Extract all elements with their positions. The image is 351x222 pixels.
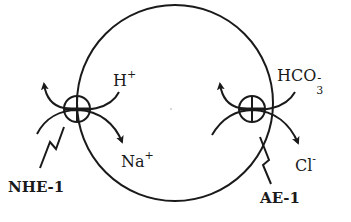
cl-symbol: Cl (295, 156, 312, 175)
na-charge: + (145, 149, 154, 162)
hco3-minus-label: HCO-3 (277, 68, 324, 84)
nhe1-label: NHE-1 (8, 180, 64, 195)
hco3-charge: - (317, 72, 321, 84)
ae1-transporter (212, 84, 298, 184)
cl-charge: - (312, 153, 316, 166)
cl-minus-label: Cl- (295, 156, 316, 174)
cell-center-dot (170, 108, 172, 110)
h-symbol: H (113, 71, 127, 90)
na-plus-label: Na+ (121, 152, 154, 170)
h-plus-label: H+ (113, 71, 136, 89)
hco-symbol: HCO (277, 66, 316, 85)
ae1-label: AE-1 (260, 191, 300, 206)
na-symbol: Na (121, 152, 145, 171)
ae1-pointer-line (260, 137, 271, 184)
cl-minus-influx-arrow (212, 110, 298, 143)
cell-membrane (77, 5, 273, 201)
hco3-subscript: 3 (316, 85, 323, 96)
nhe1-pointer-line (40, 127, 64, 168)
h-charge: + (127, 68, 136, 81)
